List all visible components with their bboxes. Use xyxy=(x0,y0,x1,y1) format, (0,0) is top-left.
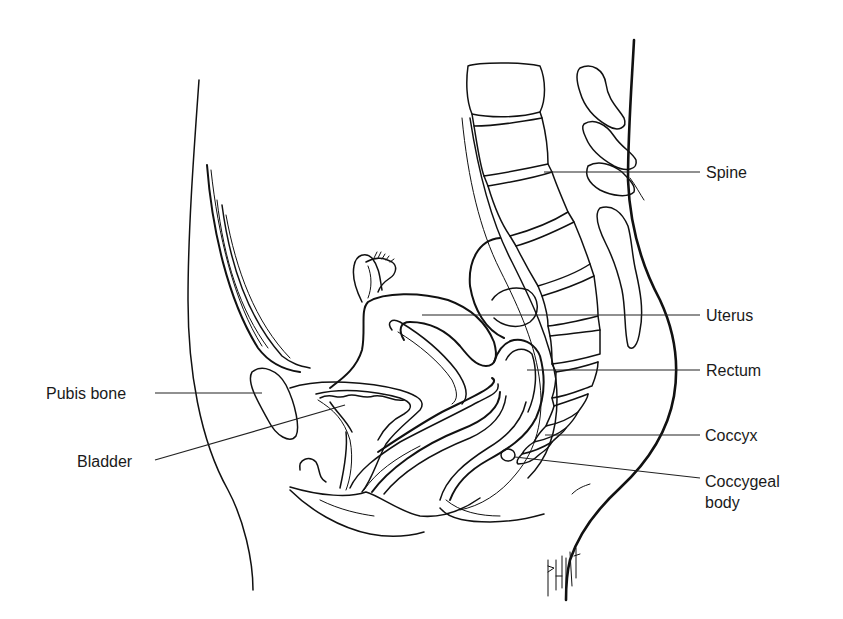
artist-signature xyxy=(548,548,580,596)
label-pubis-bone: Pubis bone xyxy=(46,384,126,403)
leader-bladder xyxy=(155,405,345,460)
label-coccyx: Coccyx xyxy=(705,426,757,445)
label-bladder: Bladder xyxy=(77,452,132,471)
label-spine: Spine xyxy=(706,163,747,182)
uterus-shape xyxy=(330,294,496,388)
label-rectum: Rectum xyxy=(706,361,761,380)
label-coccygeal-body: Coccygeal body xyxy=(705,471,780,513)
spinous-processes xyxy=(577,66,642,348)
anatomy-diagram: Spine Uterus Rectum Coccyx Coccygeal bod… xyxy=(0,0,843,619)
anterior-body-outline xyxy=(188,80,253,590)
abdominal-muscle-fibers xyxy=(207,165,300,372)
leader-coccygeal-body xyxy=(515,457,700,478)
pubis-bone-shape xyxy=(250,368,297,439)
spine-vertebrae xyxy=(467,63,600,464)
label-uterus: Uterus xyxy=(706,306,753,325)
coccygeal-body-shape xyxy=(501,449,515,461)
